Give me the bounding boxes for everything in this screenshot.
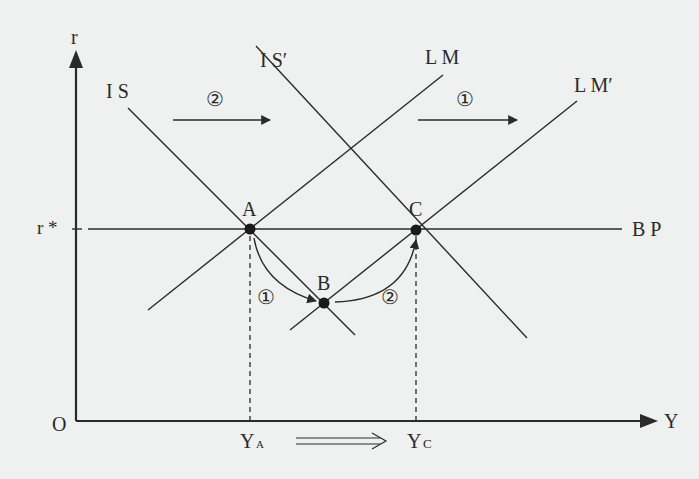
lm-prime-curve: [290, 101, 577, 330]
ya-label-sub: A: [256, 438, 264, 450]
lm-label: L M: [425, 46, 459, 68]
bp-label: B P: [632, 218, 661, 240]
is-shift-step-label: ②: [206, 88, 224, 110]
x-axis: [76, 414, 658, 428]
a-to-b-step-label: ①: [257, 286, 275, 308]
x-axis-label: Y: [664, 410, 678, 432]
y-axis-arrow-icon: [69, 50, 83, 68]
b-to-c-arrow-icon: [335, 240, 416, 302]
is-lm-bp-diagram: r Y O r * I S I S′ L M L M′ B P A B C ② …: [0, 0, 699, 479]
lm-shift-step-label: ①: [456, 88, 474, 110]
output-increase-double-arrow-icon: [296, 433, 386, 449]
yc-label-main: Y: [407, 430, 421, 452]
point-b-label: B: [317, 272, 330, 294]
ya-label-main: Y: [240, 430, 254, 452]
point-c-label: C: [409, 198, 422, 220]
is-label: I S: [106, 80, 129, 102]
yc-label-sub: C: [423, 436, 432, 451]
y-axis: [69, 50, 83, 421]
origin-label: O: [52, 413, 66, 435]
point-a-label: A: [242, 198, 257, 220]
yc-label: Y C: [407, 430, 432, 452]
r-star-label: r *: [37, 217, 58, 238]
y-axis-label: r: [71, 26, 78, 48]
is-prime-label: I S′: [260, 49, 287, 71]
point-c-dot: [411, 225, 422, 236]
lm-prime-label: L M′: [574, 74, 613, 96]
point-a-dot: [245, 224, 256, 235]
b-to-c-step-label: ②: [381, 286, 399, 308]
point-b-dot: [319, 298, 330, 309]
x-axis-arrow-icon: [640, 414, 658, 428]
ya-label: Y A: [240, 430, 264, 452]
